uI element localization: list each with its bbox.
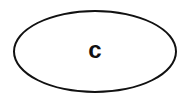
node-label: c — [88, 38, 101, 62]
ellipse-node-c: c — [13, 10, 177, 93]
